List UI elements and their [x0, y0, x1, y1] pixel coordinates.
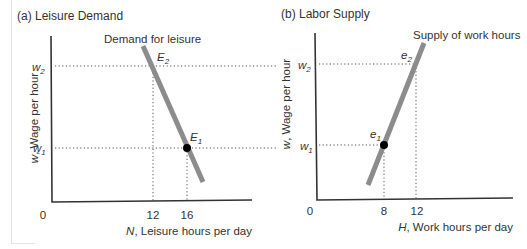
panel-b-origin: 0 — [307, 205, 313, 217]
panel-b-tick-w1: w1 — [300, 140, 313, 155]
supply-of-work-hours-curve — [368, 43, 424, 185]
panel-a-title: (a) Leisure Demand — [17, 9, 123, 23]
figure: (a) Leisure Demand w, Wage per hour w2 w… — [0, 0, 527, 249]
point-E1-marker — [183, 144, 191, 152]
panel-a-tick-12: 12 — [147, 209, 160, 221]
panel-labor-supply: (b) Labor Supply w, Wage per hour w2 w1 … — [280, 7, 521, 233]
panel-a-origin: 0 — [40, 209, 46, 221]
panel-a-x-axis-label: N, Leisure hours per day — [126, 225, 252, 237]
panel-b-y-axis-label: w, Wage per hour — [280, 59, 292, 150]
panel-b-title: (b) Labor Supply — [281, 7, 370, 21]
panel-b-tick-w2: w2 — [298, 59, 311, 74]
panel-b-tick-8: 8 — [381, 205, 387, 217]
panel-b-tick-12: 12 — [411, 205, 424, 217]
point-e1-label: e1 — [370, 128, 381, 143]
panel-a-tick-16: 16 — [181, 209, 194, 221]
point-e2-label: e2 — [401, 49, 412, 64]
point-e1-marker — [380, 141, 388, 149]
point-E2-label: E2 — [157, 51, 170, 66]
supply-curve-label: Supply of work hours — [413, 29, 521, 41]
panel-b-x-axis-label: H, Work hours per day — [398, 221, 513, 233]
demand-curve-label: Demand for leisure — [104, 33, 201, 45]
point-E1-label: E1 — [190, 131, 202, 146]
panel-leisure-demand: (a) Leisure Demand w, Wage per hour w2 w… — [17, 9, 278, 237]
panel-b-axes — [315, 33, 513, 200]
demand-for-leisure-curve — [143, 46, 203, 182]
